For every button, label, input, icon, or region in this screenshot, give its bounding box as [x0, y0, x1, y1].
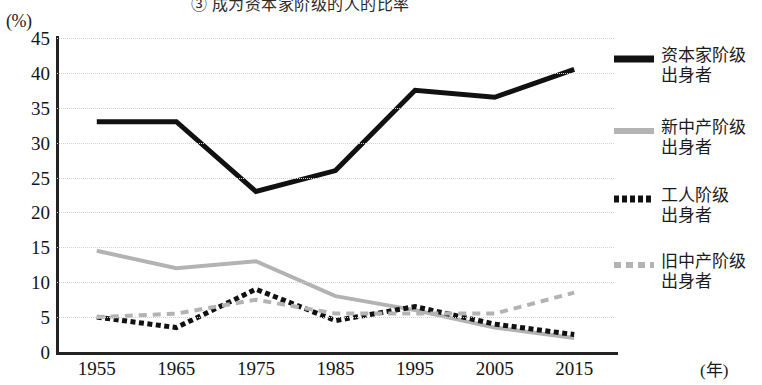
chart-page: ③ 成为资本家阶级的人的比率 (%) (年) 45403530252015105…: [0, 0, 762, 385]
legend-item-label: 工人阶级 出身者: [661, 186, 729, 226]
chart-title: ③ 成为资本家阶级的人的比率: [0, 0, 600, 15]
legend-item-label: 资本家阶级 出身者: [661, 46, 746, 86]
plot-area: [57, 38, 614, 352]
y-axis-tick-label: 15: [6, 238, 50, 257]
y-axis-tick-label: 45: [6, 29, 50, 48]
gridline: [57, 143, 614, 145]
solid-gray-line-swatch: [614, 122, 654, 140]
gridline: [57, 73, 614, 75]
gridline: [57, 212, 614, 214]
y-axis-tick-label: 10: [6, 273, 50, 292]
y-axis-tick-label: 40: [6, 63, 50, 82]
chart-legend: 资本家阶级 出身者新中产阶级 出身者工人阶级 出身者旧中产阶级 出身者: [614, 36, 762, 286]
solid-black-line-swatch: [614, 50, 654, 68]
x-axis-tick-label: 1995: [396, 358, 434, 380]
legend-item: 新中产阶级 出身者: [614, 118, 762, 158]
legend-item-label: 旧中产阶级 出身者: [661, 252, 746, 292]
y-axis-tick-label: 20: [6, 203, 50, 222]
gridline: [57, 282, 614, 284]
gridline: [57, 38, 614, 40]
x-axis-line: [56, 352, 618, 355]
dashed-gray-line-swatch: [614, 256, 654, 274]
gridline: [57, 317, 614, 319]
x-axis-unit-label: (年): [700, 356, 728, 381]
x-axis-tick-label: 1955: [78, 358, 116, 380]
x-axis-tick-labels: 1955196519751985199520052015: [57, 358, 614, 384]
x-axis-tick-label: 1965: [157, 358, 195, 380]
gridline: [57, 247, 614, 249]
dotted-black-line-swatch: [614, 190, 654, 208]
y-axis-tick-label: 30: [6, 133, 50, 152]
gridline: [57, 108, 614, 110]
y-axis-tick-label: 5: [6, 308, 50, 327]
x-axis-tick-label: 1975: [237, 358, 275, 380]
series-line: [97, 69, 574, 191]
y-axis-tick-label: 35: [6, 98, 50, 117]
y-axis-tick-label: 25: [6, 168, 50, 187]
x-axis-tick-label: 2015: [555, 358, 593, 380]
x-axis-tick-label: 2005: [476, 358, 514, 380]
legend-item: 旧中产阶级 出身者: [614, 252, 762, 292]
y-axis-tick-label: 0: [6, 343, 50, 362]
gridline: [57, 178, 614, 180]
legend-item-label: 新中产阶级 出身者: [661, 118, 746, 158]
legend-item: 工人阶级 出身者: [614, 186, 762, 226]
x-axis-tick-label: 1985: [317, 358, 355, 380]
y-axis-tick-labels: 454035302520151050: [0, 38, 50, 352]
series-lines: [57, 38, 614, 352]
legend-item: 资本家阶级 出身者: [614, 46, 762, 86]
